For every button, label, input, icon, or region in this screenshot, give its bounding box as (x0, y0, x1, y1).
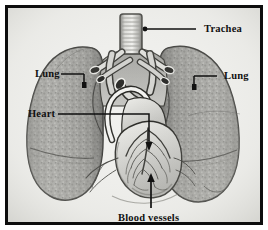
label-heart: Heart (28, 109, 55, 120)
figure-frame: Trachea Lung Lung Heart Blood vessels (5, 5, 263, 225)
figure-stage: Trachea Lung Lung Heart Blood vessels (0, 0, 268, 230)
label-lung-left: Lung (35, 69, 60, 80)
label-blood-vessels: Blood vessels (118, 213, 179, 222)
illustration-plate: Trachea Lung Lung Heart Blood vessels (8, 8, 260, 222)
label-lung-right: Lung (224, 71, 249, 82)
label-trachea: Trachea (204, 24, 242, 35)
